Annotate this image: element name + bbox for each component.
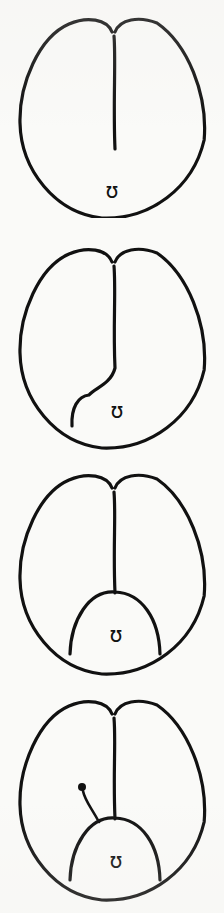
stage-diagram-stage-1: ʊ xyxy=(0,6,224,218)
median-furrow-hooked xyxy=(72,266,115,426)
stage-diagram-stage-3: ʊ xyxy=(0,462,224,680)
median-furrow xyxy=(114,718,115,819)
upsilon-marker-glyph: ʊ xyxy=(110,623,123,647)
stage-diagram-stage-4: ʊ xyxy=(0,688,224,908)
median-furrow xyxy=(114,36,115,149)
upsilon-marker-glyph: ʊ xyxy=(111,399,124,423)
median-furrow xyxy=(114,492,115,593)
stage-diagram-stage-2: ʊ xyxy=(0,236,224,452)
panel-stage-4: ʊ xyxy=(0,688,224,908)
panel-stage-1: ʊ xyxy=(0,6,224,218)
upsilon-marker-glyph: ʊ xyxy=(106,179,119,203)
marker-knob-dot xyxy=(78,783,86,791)
panel-stage-2: ʊ xyxy=(0,236,224,452)
panel-stage-3: ʊ xyxy=(0,462,224,680)
upsilon-marker-glyph: ʊ xyxy=(110,849,123,873)
figure-sheet: ʊʊʊʊ xyxy=(0,0,224,913)
marker-stalk xyxy=(83,791,99,822)
